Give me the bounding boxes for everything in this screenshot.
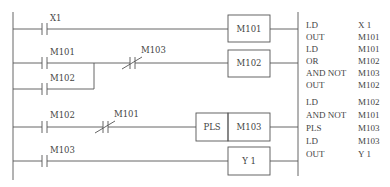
instruction-op: PLS xyxy=(306,123,322,134)
rung-3: M102 M101 PLS M103 xyxy=(13,109,298,141)
instruction-op: LD xyxy=(306,136,318,147)
contact-label: M103 xyxy=(50,145,75,155)
coil-label: M101 xyxy=(237,24,262,34)
instruction-op: AND NOT xyxy=(306,68,346,79)
instruction-op: LD xyxy=(306,97,318,108)
instruction-arg: M103 xyxy=(358,68,380,79)
instruction-arg: M103 xyxy=(358,136,380,147)
ladder-diagram: X1 M101 M101 M103 M102 M102 M102 M101 xyxy=(0,0,390,187)
contact-label: M103 xyxy=(141,45,166,55)
instruction-op: OUT xyxy=(306,32,325,43)
contact-label: M101 xyxy=(50,47,75,57)
contact-label: M101 xyxy=(114,109,139,119)
coil-label: Y 1 xyxy=(241,156,256,166)
instruction-arg: M103 xyxy=(358,123,380,134)
contact-label: M102 xyxy=(50,110,75,120)
instruction-op: LD xyxy=(306,44,318,55)
coil-label: M102 xyxy=(237,58,262,68)
instruction-arg: M102 xyxy=(358,80,380,91)
instruction-op: OR xyxy=(306,56,319,67)
rung-4: M103 Y 1 xyxy=(13,145,298,175)
function-label: PLS xyxy=(203,122,220,132)
instruction-op: OUT xyxy=(306,149,325,160)
rung-2: M101 M103 M102 M102 xyxy=(13,45,298,95)
contact-label: X1 xyxy=(50,13,61,23)
instruction-arg: M102 xyxy=(358,56,380,67)
instruction-arg: X 1 xyxy=(358,20,371,31)
instruction-arg: Y 1 xyxy=(358,149,371,160)
instruction-arg: M102 xyxy=(358,97,380,108)
instruction-op: LD xyxy=(306,20,318,31)
coil-label: M103 xyxy=(237,122,262,132)
contact-label: M102 xyxy=(50,73,75,83)
instruction-arg: M101 xyxy=(358,32,380,43)
instruction-op: OUT xyxy=(306,80,325,91)
rung-1: X1 M101 xyxy=(13,13,298,42)
instruction-op: AND NOT xyxy=(306,110,346,121)
instruction-arg: M101 xyxy=(358,44,380,55)
instruction-arg: M101 xyxy=(358,110,380,121)
